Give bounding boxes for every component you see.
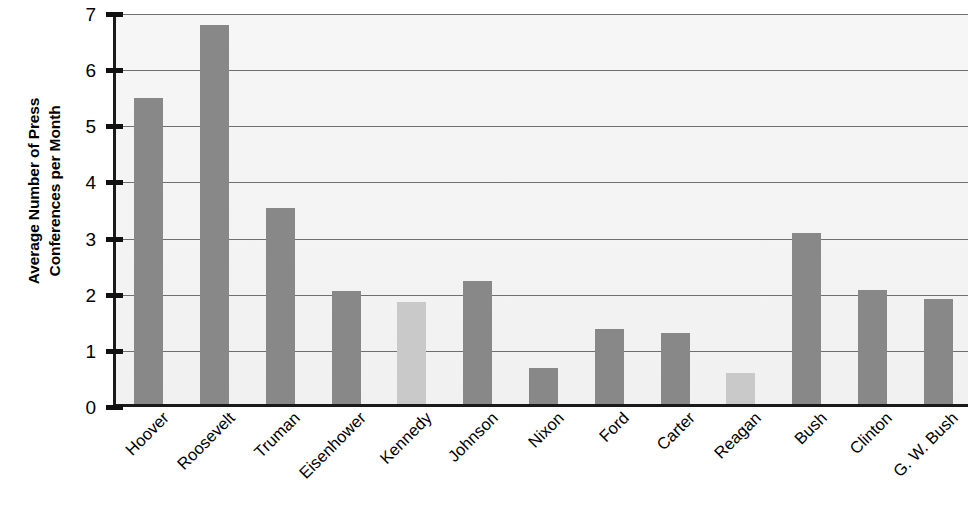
bar bbox=[200, 25, 229, 404]
bar bbox=[595, 329, 624, 404]
y-axis-tick-mark bbox=[106, 12, 123, 17]
bar bbox=[529, 368, 558, 404]
bar bbox=[792, 233, 821, 404]
y-axis-title-container: Average Number of Press Conferences per … bbox=[0, 0, 70, 410]
y-axis-tick-mark bbox=[106, 180, 123, 185]
bar bbox=[332, 291, 361, 404]
bar bbox=[266, 208, 295, 405]
x-axis-tick-label: G. W. Bush bbox=[890, 409, 961, 480]
x-axis-tick-label: Hoover bbox=[122, 409, 171, 458]
bar bbox=[134, 98, 163, 404]
bar bbox=[397, 302, 426, 404]
y-axis-tick-labels: 01234567 bbox=[62, 0, 106, 420]
gridline bbox=[116, 70, 968, 71]
x-axis-tick-label: Ford bbox=[596, 409, 632, 445]
x-axis-tick-labels: HooverRooseveltTrumanEisenhowerKennedyJo… bbox=[113, 409, 978, 518]
y-axis-tick-label: 5 bbox=[66, 117, 96, 136]
x-axis-tick-label: Roosevelt bbox=[174, 409, 238, 473]
gridline bbox=[116, 14, 968, 15]
bar bbox=[726, 373, 755, 404]
y-axis-tick-mark bbox=[106, 237, 123, 242]
y-axis-tick-mark bbox=[106, 293, 123, 298]
x-axis-tick-label: Kennedy bbox=[377, 409, 435, 467]
x-axis-tick-label: Clinton bbox=[847, 409, 895, 457]
y-axis-tick-mark bbox=[106, 124, 123, 129]
y-axis-tick-label: 4 bbox=[66, 173, 96, 192]
y-axis-tick-label: 7 bbox=[66, 5, 96, 24]
gridline bbox=[116, 239, 968, 240]
y-axis-tick-mark bbox=[106, 68, 123, 73]
gridline bbox=[116, 182, 968, 183]
bar bbox=[463, 281, 492, 405]
x-axis-tick-label: Eisenhower bbox=[296, 409, 369, 482]
y-axis-tick-label: 2 bbox=[66, 285, 96, 304]
plot-area bbox=[113, 14, 968, 407]
y-axis-tick-mark bbox=[106, 349, 123, 354]
x-axis-tick-label: Truman bbox=[252, 409, 303, 460]
x-axis-tick-label: Reagan bbox=[711, 409, 764, 462]
bar bbox=[858, 290, 887, 404]
y-axis-tick-label: 0 bbox=[66, 398, 96, 417]
x-axis-tick-label: Bush bbox=[791, 409, 829, 447]
bar bbox=[661, 333, 690, 404]
y-axis-tick-label: 6 bbox=[66, 61, 96, 80]
y-axis-tick-label: 3 bbox=[66, 229, 96, 248]
y-axis-tick-label: 1 bbox=[66, 341, 96, 360]
x-axis-tick-label: Johnson bbox=[445, 409, 501, 465]
gridline bbox=[116, 351, 968, 352]
press-conference-bar-chart: Average Number of Press Conferences per … bbox=[0, 0, 978, 518]
y-axis-title: Average Number of Press Conferences per … bbox=[24, 26, 66, 356]
x-axis-tick-label: Nixon bbox=[525, 409, 566, 450]
gridline bbox=[116, 295, 968, 296]
x-axis-tick-label: Carter bbox=[654, 409, 698, 453]
bar bbox=[924, 299, 953, 404]
gridline bbox=[116, 126, 968, 127]
